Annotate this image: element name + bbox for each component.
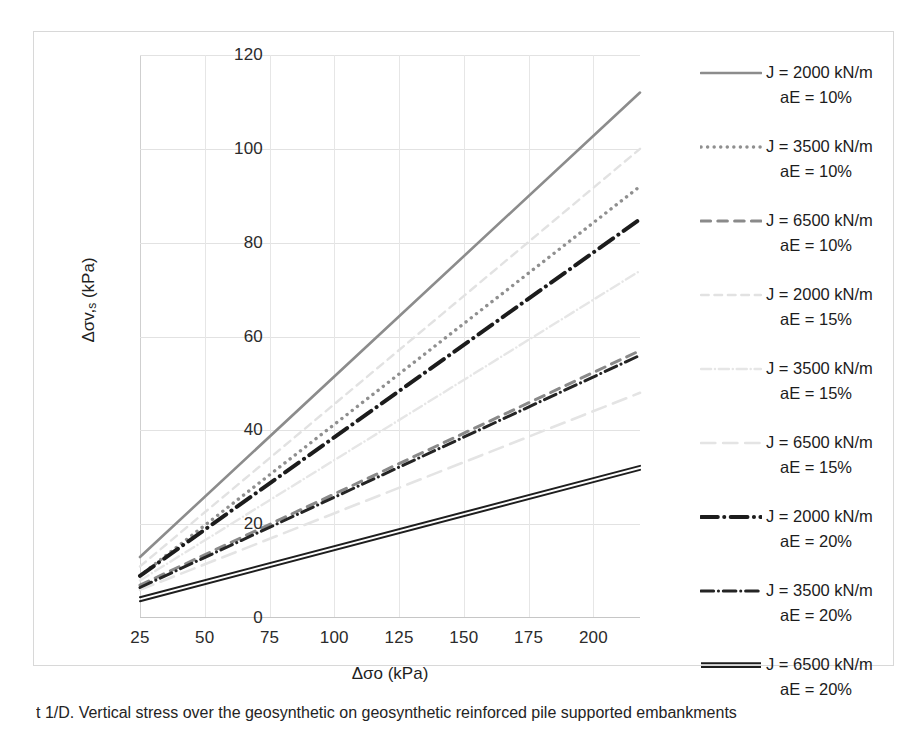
dashed-gray-line-icon xyxy=(700,216,762,226)
y-axis-tick-label: 80 xyxy=(203,233,263,253)
y-axis-tick-label: 20 xyxy=(203,514,263,534)
figure-caption: t 1/D. Vertical stress over the geosynth… xyxy=(36,703,876,730)
x-axis-tick-label: 25 xyxy=(110,628,170,648)
legend-item[interactable]: J = 3500 kN/maE = 10% xyxy=(700,134,895,188)
y-axis-tick-label: 120 xyxy=(203,45,263,65)
faint-dashdot-line-icon xyxy=(700,364,762,374)
dotted-gray-line-icon xyxy=(700,142,762,152)
y-axis-title-main: Δσv, xyxy=(79,309,98,343)
x-axis-title: Δσo (kPa) xyxy=(140,664,640,684)
x-axis-tick-label: 200 xyxy=(563,628,623,648)
series-line xyxy=(140,149,640,567)
legend-item[interactable]: J = 2000 kN/maE = 10% xyxy=(700,60,895,114)
y-axis-title-subscript: s xyxy=(85,303,99,309)
legend-label-line2: aE = 20% xyxy=(766,529,873,554)
x-axis-tick-label: 150 xyxy=(434,628,494,648)
black-dashdot-line-icon xyxy=(700,586,762,596)
legend-label-line1: J = 3500 kN/m xyxy=(766,359,873,377)
x-axis-tick-label: 75 xyxy=(240,628,300,648)
y-axis-tick-label: 40 xyxy=(203,420,263,440)
y-axis-tick-label: 0 xyxy=(203,608,263,628)
thick-black-dashdot-line-icon xyxy=(700,512,762,522)
legend-label: J = 2000 kN/maE = 20% xyxy=(766,504,873,554)
legend-item[interactable]: J = 6500 kN/maE = 20% xyxy=(700,652,895,706)
y-axis-tick-label: 60 xyxy=(203,327,263,347)
legend-label-line2: aE = 10% xyxy=(766,159,873,184)
legend-item[interactable]: J = 2000 kN/maE = 15% xyxy=(700,282,895,336)
legend-label-line2: aE = 10% xyxy=(766,233,873,258)
legend-label: J = 3500 kN/maE = 10% xyxy=(766,134,873,184)
legend-item[interactable]: J = 6500 kN/maE = 15% xyxy=(700,430,895,484)
x-axis-tick-label: 125 xyxy=(369,628,429,648)
legend: J = 2000 kN/maE = 10%J = 3500 kN/maE = 1… xyxy=(700,60,895,726)
legend-label-line1: J = 3500 kN/m xyxy=(766,137,873,155)
legend-label-line1: J = 6500 kN/m xyxy=(766,211,873,229)
y-axis-title: Δσv,s (kPa) xyxy=(79,257,99,342)
legend-item[interactable]: J = 6500 kN/maE = 10% xyxy=(700,208,895,262)
legend-label: J = 2000 kN/maE = 15% xyxy=(766,282,873,332)
legend-label-line1: J = 2000 kN/m xyxy=(766,285,873,303)
legend-label-line1: J = 6500 kN/m xyxy=(766,655,873,673)
legend-label-line2: aE = 20% xyxy=(766,677,873,702)
legend-label-line2: aE = 15% xyxy=(766,455,873,480)
legend-label: J = 3500 kN/maE = 20% xyxy=(766,578,873,628)
x-axis-tick-label: 100 xyxy=(304,628,364,648)
series-line xyxy=(140,93,640,557)
legend-label-line2: aE = 10% xyxy=(766,85,873,110)
series-line xyxy=(140,470,640,601)
x-axis-tick-label: 175 xyxy=(499,628,559,648)
faint-longdash-line-icon xyxy=(700,438,762,448)
legend-item[interactable]: J = 3500 kN/maE = 20% xyxy=(700,578,895,632)
legend-label-line2: aE = 15% xyxy=(766,307,873,332)
chart-area: Δσv,s (kPa) 020406080100120 255075100125… xyxy=(0,0,909,690)
y-axis-title-unit: (kPa) xyxy=(79,257,98,302)
legend-label-line1: J = 6500 kN/m xyxy=(766,433,873,451)
figure-caption-text: t 1/D. Vertical stress over the geosynth… xyxy=(36,703,876,723)
legend-label: J = 6500 kN/maE = 20% xyxy=(766,652,873,702)
series-line xyxy=(140,351,640,586)
legend-label-line2: aE = 20% xyxy=(766,603,873,628)
legend-item[interactable]: J = 2000 kN/maE = 20% xyxy=(700,504,895,558)
legend-label-line2: aE = 15% xyxy=(766,381,873,406)
y-axis-tick-label: 100 xyxy=(203,139,263,159)
legend-label: J = 6500 kN/maE = 10% xyxy=(766,208,873,258)
faint-dashed-line-icon xyxy=(700,290,762,300)
legend-label: J = 6500 kN/maE = 15% xyxy=(766,430,873,480)
legend-label-line1: J = 3500 kN/m xyxy=(766,581,873,599)
legend-label: J = 2000 kN/maE = 10% xyxy=(766,60,873,110)
legend-label-line1: J = 2000 kN/m xyxy=(766,63,873,81)
legend-label-line1: J = 2000 kN/m xyxy=(766,507,873,525)
legend-label: J = 3500 kN/maE = 15% xyxy=(766,356,873,406)
black-double-line-icon xyxy=(700,660,762,670)
legend-item[interactable]: J = 3500 kN/maE = 15% xyxy=(700,356,895,410)
series-line xyxy=(140,355,640,587)
x-axis-tick-label: 50 xyxy=(175,628,235,648)
solid-gray-line-icon xyxy=(700,68,762,78)
